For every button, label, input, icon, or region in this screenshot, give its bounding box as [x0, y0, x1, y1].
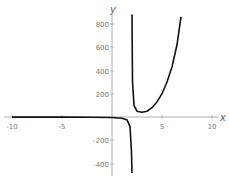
- x-tick-label: 5: [160, 123, 164, 131]
- y-axis-label: y: [109, 4, 117, 15]
- x-tick-label: 10: [208, 123, 217, 131]
- x-tick-label: -5: [59, 123, 66, 131]
- y-tick-label: 400: [96, 68, 109, 76]
- y-tick-label: -200: [93, 137, 109, 145]
- y-tick-label: 200: [96, 91, 109, 99]
- y-tick-label: 800: [96, 21, 109, 29]
- y-tick-label: 600: [96, 44, 109, 52]
- x-axis-label: x: [219, 112, 226, 123]
- curve-right-branch: [132, 15, 181, 113]
- plot: -10 -5 5 10 800 600 400 200 -200 -400 x …: [0, 0, 229, 180]
- y-tick-label: -400: [93, 161, 109, 169]
- curve-left-branch: [12, 117, 132, 173]
- x-tick-label: -10: [6, 123, 17, 131]
